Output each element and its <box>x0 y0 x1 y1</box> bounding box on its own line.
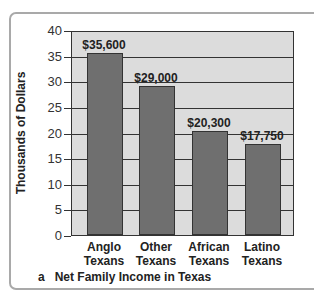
x-tick-label: LatinoTexans <box>232 240 292 268</box>
bar <box>245 144 281 235</box>
y-tick-label: 30 <box>40 74 62 89</box>
y-tick <box>64 108 71 109</box>
y-tick-label: 40 <box>40 23 62 38</box>
y-axis-title: Thousands of Dollars <box>14 72 28 195</box>
bar <box>139 86 175 235</box>
chart-title: Net Family Income in Texas <box>55 270 212 284</box>
y-tick <box>64 57 71 58</box>
y-tick <box>64 134 71 135</box>
y-tick-label: 20 <box>40 126 62 141</box>
y-tick <box>64 210 71 211</box>
x-tick-label: OtherTexans <box>126 240 186 268</box>
y-tick <box>64 82 71 83</box>
y-tick <box>64 31 71 32</box>
y-tick-label: 35 <box>40 49 62 64</box>
x-tick-label: AfricanTexans <box>179 240 239 268</box>
y-tick-label: 5 <box>40 202 62 217</box>
y-tick <box>64 236 71 237</box>
y-tick-label: 0 <box>40 228 62 243</box>
y-tick-label: 15 <box>40 151 62 166</box>
chart-caption: aNet Family Income in Texas <box>38 270 211 284</box>
data-label: $17,750 <box>232 129 292 143</box>
y-tick <box>64 185 71 186</box>
caption-letter: a <box>38 270 45 284</box>
data-label: $29,000 <box>126 71 186 85</box>
y-tick-label: 10 <box>40 177 62 192</box>
bar <box>87 53 123 235</box>
y-tick-label: 25 <box>40 100 62 115</box>
bar <box>192 131 228 235</box>
data-label: $35,600 <box>74 38 134 52</box>
y-tick <box>64 159 71 160</box>
data-label: $20,300 <box>179 116 239 130</box>
x-tick-label: AngloTexans <box>74 240 134 268</box>
